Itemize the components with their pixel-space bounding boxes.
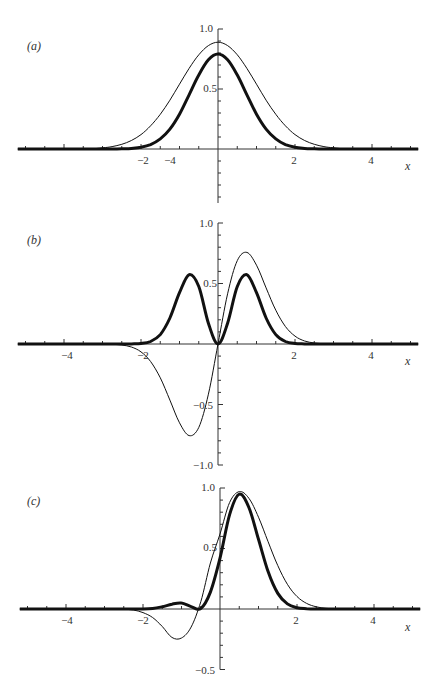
y-tick-label: −0.5: [193, 399, 213, 411]
x-tick-label: −4: [61, 349, 73, 361]
x-tick-label: −2: [137, 614, 149, 626]
panel-b: (b) −4 −2 2 4 x 1.0 0.5 −0.5 −1.0: [18, 217, 418, 471]
axes-c: [20, 488, 420, 670]
y-tick-label: 1.0: [199, 22, 213, 34]
x-tick-label: −4: [164, 154, 176, 166]
x-tick-label: 4: [368, 349, 374, 361]
x-tick-label: 2: [291, 349, 297, 361]
y-tick-label: 0.5: [203, 82, 217, 94]
y-tick-label: 1.0: [201, 481, 215, 493]
x-tick-label: 4: [370, 614, 376, 626]
panel-label-a: (a): [27, 39, 41, 53]
x-tick-label: −4: [61, 614, 73, 626]
x-axis-title: x: [404, 620, 411, 634]
x-tick-label: 2: [293, 614, 299, 626]
panel-a: (a) −4 −2 2 4 x 1.0 0.5: [18, 22, 418, 203]
panel-c: (c) −4 −2 2 4 x 1.0 0.5 −0.5: [20, 481, 420, 676]
figure: (a) −4 −2 2 4 x 1.0 0.5 (b) −4 −2 2 4 x …: [0, 0, 440, 693]
y-tick-label: −1.0: [193, 459, 213, 471]
x-tick-label: 4: [368, 154, 374, 166]
x-tick-label: 2: [291, 154, 297, 166]
panel-label-c: (c): [27, 494, 40, 508]
y-tick-label: 0.5: [203, 277, 217, 289]
y-tick-label: −0.5: [195, 664, 215, 676]
x-axis-title: x: [404, 354, 411, 368]
y-tick-label: 1.0: [199, 217, 213, 229]
x-tick-label: −2: [137, 154, 149, 166]
panel-label-b: (b): [27, 233, 41, 247]
x-axis-title: x: [404, 159, 411, 173]
